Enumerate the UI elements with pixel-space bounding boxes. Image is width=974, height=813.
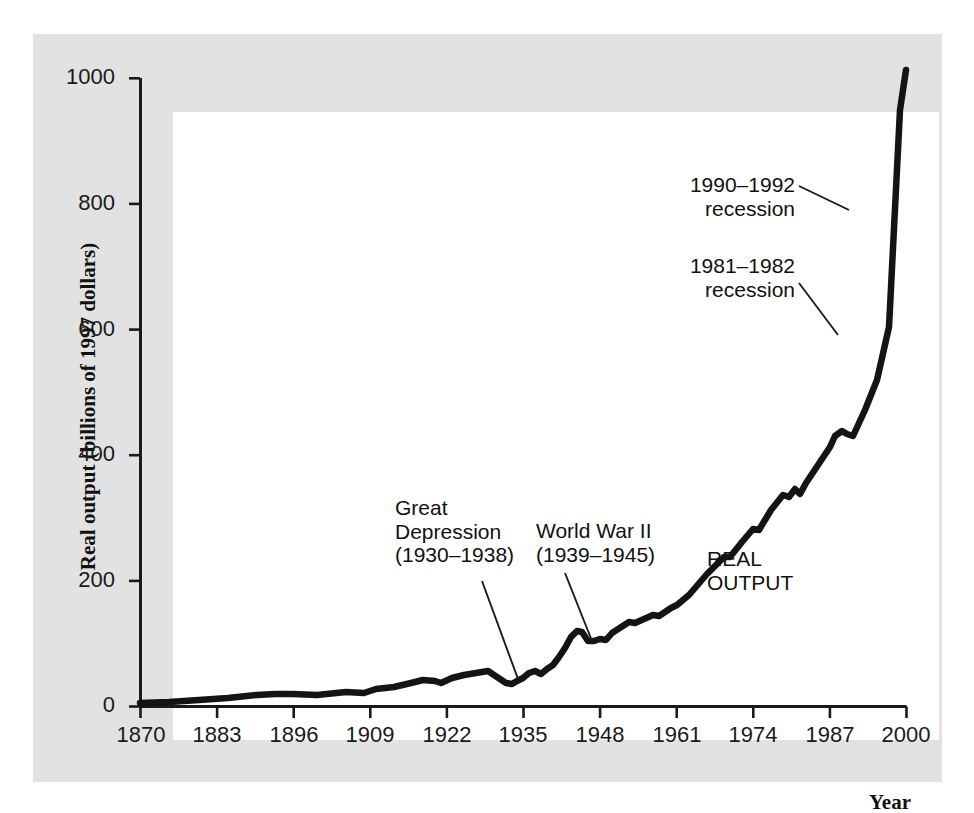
leader-recession-1981 [799,283,838,335]
x-tick-label-2000: 2000 [861,722,951,748]
series-real-output [140,70,906,703]
y-tick-label-400: 400 [35,441,115,467]
annotation-great-depression: Great Depression (1930–1938) [395,496,514,567]
x-tick-marks [141,707,907,719]
y-tick-label-600: 600 [35,316,115,342]
leader-great-depression [482,581,518,679]
annotation-world-war-2: World War II (1939–1945) [536,519,655,566]
y-tick-marks [129,78,140,706]
y-tick-label-0: 0 [35,692,115,718]
leader-recession-1990 [799,186,849,210]
y-tick-label-200: 200 [35,567,115,593]
annotation-recession-1990-1992: 1990–1992 recession [545,173,795,220]
y-tick-label-1000: 1000 [35,64,115,90]
y-tick-label-800: 800 [35,190,115,216]
annotation-recession-1981-1982: 1981–1982 recession [545,254,795,301]
series-label-real-output: REAL OUTPUT [707,547,793,594]
